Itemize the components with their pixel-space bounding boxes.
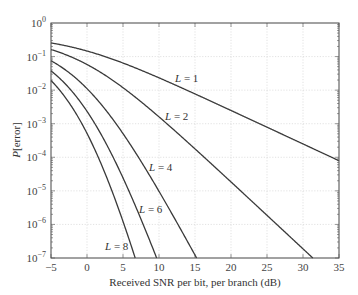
x-tick-label: 5	[120, 261, 126, 273]
y-tick-label: 10−3	[26, 116, 46, 130]
y-tick-label: 10−2	[26, 82, 46, 96]
x-tick-label: 10	[154, 261, 166, 273]
x-axis-tick-labels: −5 0 5 10 15 20 25 30 35	[45, 261, 345, 273]
ber-diversity-chart: −5 0 5 10 15 20 25 30 35 10010−110−210−3…	[0, 0, 358, 295]
curve-label-l6: L = 6	[138, 203, 163, 215]
y-axis-tick-labels: 10010−110−210−310−410−510−610−7	[26, 15, 46, 264]
curve-label-l8: L = 8	[104, 240, 129, 252]
x-tick-label: 25	[262, 261, 274, 273]
curve-label-l2: L = 2	[164, 110, 188, 122]
y-axis-label-rest: [error]	[10, 122, 22, 151]
x-tick-label: −5	[45, 261, 57, 273]
y-tick-label: 10−1	[26, 49, 46, 63]
x-tick-label: 35	[334, 261, 346, 273]
curve-l8	[51, 80, 135, 258]
y-tick-label: 10−5	[26, 183, 46, 197]
x-tick-label: 30	[298, 261, 310, 273]
y-tick-label: 10−7	[26, 250, 46, 264]
x-tick-label: 0	[84, 261, 90, 273]
curve-label-l4: L = 4	[148, 161, 173, 173]
x-tick-label: 15	[190, 261, 202, 273]
x-tick-label: 20	[226, 261, 238, 273]
y-axis-label: P[error]	[10, 122, 22, 158]
y-tick-label: 10−4	[26, 149, 46, 163]
y-tick-label: 100	[31, 15, 46, 29]
curve-labels: L = 1 L = 2 L = 4 L = 6 L = 8	[104, 72, 198, 252]
curve-label-l1: L = 1	[174, 72, 198, 84]
x-axis-label: Received SNR per bit, per branch (dB)	[109, 276, 281, 289]
y-tick-label: 10−6	[26, 216, 46, 230]
